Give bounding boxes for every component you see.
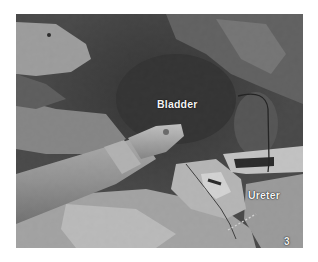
photo-texture: [16, 14, 303, 248]
ureter-label: Ureter: [248, 189, 280, 201]
figure-number: 3: [284, 236, 290, 247]
surgical-photo: Bladder Ureter 3: [16, 14, 303, 248]
photo-scene: [16, 14, 303, 248]
bladder-label: Bladder: [157, 98, 198, 110]
